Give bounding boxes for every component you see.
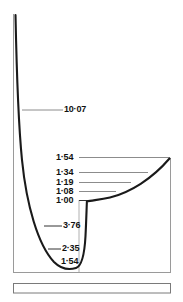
annotation-label-2-35: 2·35	[62, 244, 79, 253]
annotation-label-1-08: 1·08	[56, 187, 73, 196]
chart-canvas	[0, 0, 183, 302]
data-curve	[16, 15, 170, 269]
annotation-label-1-54-upper: 1·54	[56, 153, 73, 162]
annotation-label-1-19: 1·19	[56, 178, 73, 187]
footer-bar	[14, 284, 171, 294]
figure-container: 10·07 3·76 2·35 1·54 1·00 1·08 1·19 1·34…	[0, 0, 183, 302]
annotation-label-10-07: 10·07	[64, 105, 86, 114]
annotation-label-1-34: 1·34	[56, 168, 73, 177]
annotation-label-1-00: 1·00	[56, 196, 73, 205]
annotation-label-3-76: 3·76	[63, 221, 80, 230]
annotation-label-1-54-lower: 1·54	[61, 257, 78, 266]
